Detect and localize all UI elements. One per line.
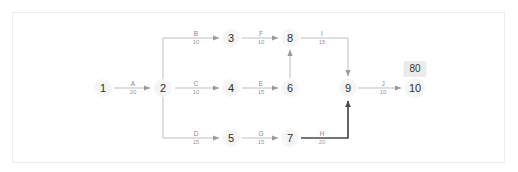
edge-label-G: G 15 [258,130,265,146]
node-3[interactable]: 3 [221,28,241,48]
edge-duration-C: 10 [193,88,200,96]
edge-activity-C: C [193,80,200,88]
edge-activity-H: H [319,130,326,138]
edge-label-I: I 15 [319,30,326,46]
edge-label-E: E 15 [258,80,265,96]
edge-label-B: B 10 [193,30,200,46]
edge-activity-B: B [193,30,200,38]
edge-duration-D: 15 [193,138,200,146]
edge-activity-A: A [130,80,137,88]
edge-label-C: C 10 [193,80,200,96]
edge-duration-H: 20 [319,138,326,146]
edge-label-D: D 15 [193,130,200,146]
node-6[interactable]: 6 [280,78,300,98]
node-10[interactable]: 10 [402,78,428,98]
edge-activity-J: J [380,80,387,88]
node-4[interactable]: 4 [221,78,241,98]
diagram-canvas: 1 2 3 4 5 6 7 8 9 10 A 20 B 10 C 10 D 15… [0,0,518,172]
edge-label-A: A 20 [130,80,137,96]
edge-activity-D: D [193,130,200,138]
node-5[interactable]: 5 [221,128,241,148]
node-9[interactable]: 9 [338,78,358,98]
node-7[interactable]: 7 [280,128,300,148]
edge-duration-E: 15 [258,88,265,96]
node-1[interactable]: 1 [93,78,113,98]
edge-duration-B: 10 [193,38,200,46]
edge-activity-E: E [258,80,265,88]
total-duration-badge: 80 [403,61,426,77]
node-8[interactable]: 8 [280,28,300,48]
edge-label-J: J 10 [380,80,387,96]
edge-duration-J: 10 [380,88,387,96]
edge-label-F: F 10 [258,30,265,46]
edge-duration-I: 15 [319,38,326,46]
edge-activity-G: G [258,130,265,138]
edge-activity-F: F [258,30,265,38]
edge-duration-F: 10 [258,38,265,46]
edge-label-H: H 20 [319,130,326,146]
edge-duration-A: 20 [130,88,137,96]
edge-duration-G: 15 [258,138,265,146]
edge-activity-I: I [319,30,326,38]
node-2[interactable]: 2 [153,78,173,98]
